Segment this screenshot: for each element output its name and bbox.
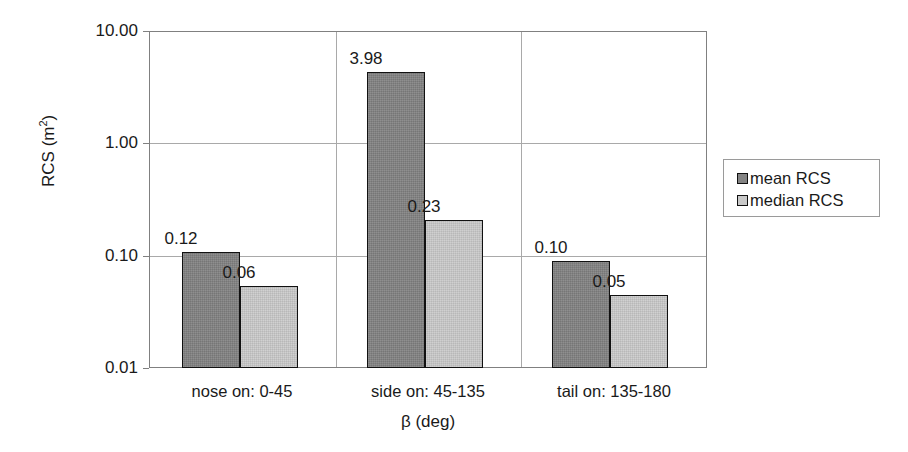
y-tick-mark-0.01 [143,368,149,369]
legend-item-median-rcs: median RCS [737,189,879,211]
bar-median-nose-on [240,286,298,368]
bar-value-mean-side-on: 3.98 [336,50,396,68]
x-tick-label-side-on: side on: 45-135 [335,382,521,401]
category-separator-2 [521,32,522,367]
legend-label-mean-rcs: mean RCS [750,169,831,187]
y-tick-label-10: 10.00 [95,22,138,39]
x-tick-label-nose-on: nose on: 0-45 [149,382,335,401]
bar-mean-side-on [367,72,425,368]
y-axis-title-exponent: 2 [37,120,49,126]
gridline-1.00 [150,143,706,144]
y-tick-label-0.01: 0.01 [105,359,138,376]
bar-value-median-tail-on: 0.05 [579,273,639,291]
bar-value-median-nose-on: 0.06 [209,264,269,282]
legend: mean RCS median RCS [723,159,880,217]
rcs-bar-chart: 10.00 1.00 0.10 0.01 RCS (m2) 0.12 0.06 … [0,0,908,452]
x-tick-label-tail-on: tail on: 135-180 [521,382,707,401]
legend-label-median-rcs: median RCS [750,191,844,209]
bar-median-tail-on [610,295,668,368]
bar-value-median-side-on: 0.23 [394,198,454,216]
y-axis-title: RCS (m2) [37,71,59,231]
bar-value-mean-tail-on: 0.10 [521,239,581,257]
y-tick-label-1: 1.00 [105,134,138,151]
legend-swatch-mean-icon [737,173,748,184]
legend-swatch-median-icon [737,195,748,206]
x-axis-title: β (deg) [149,412,707,432]
y-axis-title-base: RCS (m [39,127,58,187]
y-axis-title-close: ) [39,115,58,121]
bar-median-side-on [425,220,483,368]
category-separator-1 [336,32,337,367]
y-tick-label-0.10: 0.10 [105,247,138,264]
legend-item-mean-rcs: mean RCS [737,167,879,189]
bar-value-mean-nose-on: 0.12 [151,230,211,248]
